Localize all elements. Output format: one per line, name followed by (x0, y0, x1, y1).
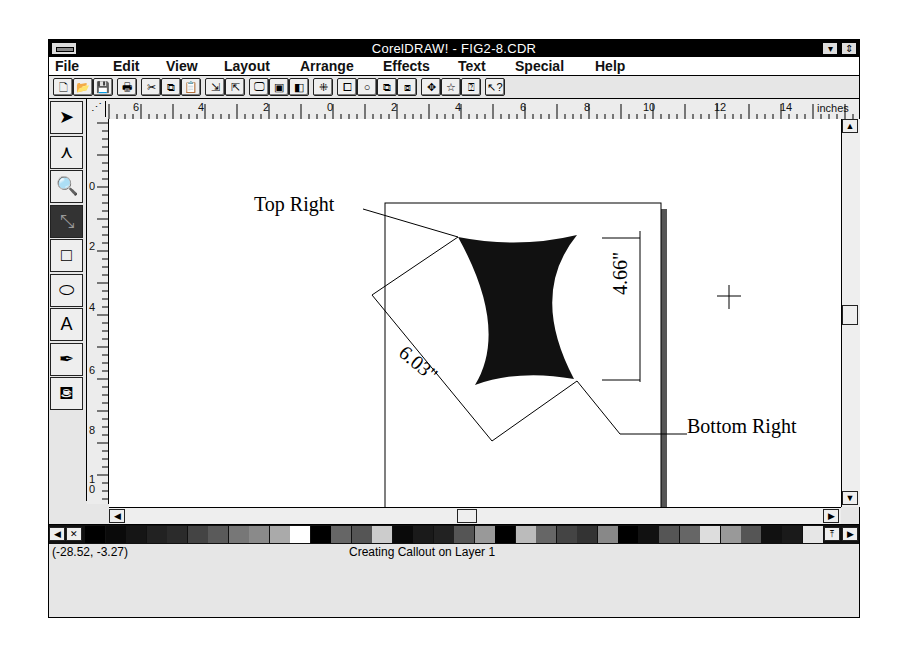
color-swatch[interactable] (557, 526, 577, 543)
horizontal-ruler[interactable]: ⋰ inches 64202468101214 (87, 99, 859, 120)
color-swatch[interactable] (290, 526, 310, 543)
color-swatch[interactable] (782, 526, 802, 543)
color-swatch[interactable] (85, 526, 105, 543)
to-front-button[interactable]: ⧉ (377, 78, 397, 96)
scroll-right-button[interactable]: ▶ (823, 509, 839, 523)
outline-pen-tool[interactable]: ✒ (50, 343, 83, 376)
color-swatch[interactable] (270, 526, 290, 543)
color-swatch[interactable] (659, 526, 679, 543)
zoom-tool[interactable]: 🔍 (50, 170, 83, 203)
color-swatch[interactable] (229, 526, 249, 543)
restore-button[interactable]: ⇕ (841, 42, 857, 55)
palette-scroll-right-button[interactable]: ▶ (842, 527, 858, 541)
color-swatch[interactable] (393, 526, 413, 543)
menu-edit[interactable]: Edit (113, 58, 139, 74)
color-swatch[interactable] (126, 526, 146, 543)
callout-bottom-right[interactable]: Bottom Right (687, 415, 796, 438)
ruler-label: 4 (198, 101, 204, 113)
minimize-button[interactable]: ▾ (822, 42, 838, 55)
color-swatch[interactable] (516, 526, 536, 543)
export-button[interactable]: ⇱ (225, 78, 245, 96)
color-swatch[interactable] (372, 526, 392, 543)
color-swatch[interactable] (147, 526, 167, 543)
palette-expand-button[interactable]: ⤒ (824, 527, 840, 541)
rotate-button[interactable]: ○ (357, 78, 377, 96)
color-swatch[interactable] (618, 526, 638, 543)
color-swatch[interactable] (700, 526, 720, 543)
window-title: CorelDRAW! - FIG2-8.CDR (49, 41, 859, 56)
save-file-icon: 💾 (96, 81, 110, 93)
color-swatch[interactable] (577, 526, 597, 543)
color-swatch[interactable] (331, 526, 351, 543)
star-symbol-button[interactable]: ☆ (441, 78, 461, 96)
show-rulers-button[interactable]: ◧ (289, 78, 309, 96)
menu-layout[interactable]: Layout (224, 58, 270, 74)
pick-tool[interactable]: ➤ (50, 101, 83, 134)
color-swatch[interactable] (495, 526, 515, 543)
group-button[interactable]: ⧠ (337, 78, 357, 96)
callout-top-right[interactable]: Top Right (254, 193, 334, 216)
scroll-left-button[interactable]: ◀ (109, 509, 125, 523)
ellipse-tool[interactable]: ⬭ (50, 274, 83, 307)
menu-arrange[interactable]: Arrange (300, 58, 354, 74)
horizontal-scrollbar[interactable]: ◀ ▶ (109, 507, 841, 524)
scroll-up-button[interactable]: ▲ (842, 119, 858, 133)
wireframe-button[interactable]: ▣ (269, 78, 289, 96)
color-swatch[interactable] (352, 526, 372, 543)
context-help-button[interactable]: ↖? (485, 78, 505, 96)
color-swatch[interactable] (639, 526, 659, 543)
color-swatch[interactable] (208, 526, 228, 543)
fill-tool[interactable]: ⛾ (50, 377, 83, 410)
color-swatch[interactable] (311, 526, 331, 543)
color-swatch[interactable] (598, 526, 618, 543)
color-swatch[interactable] (454, 526, 474, 543)
vertical-scrollbar[interactable]: ▲ ▼ (841, 119, 860, 507)
horizontal-scroll-thumb[interactable] (457, 509, 477, 523)
color-swatch[interactable] (762, 526, 782, 543)
open-file-button[interactable]: 📂 (73, 78, 93, 96)
color-swatch[interactable] (434, 526, 454, 543)
menu-special[interactable]: Special (515, 58, 564, 74)
menu-view[interactable]: View (166, 58, 198, 74)
snap-to-grid-button[interactable]: ⁜ (313, 78, 333, 96)
paste-button[interactable]: 📋 (181, 78, 201, 96)
color-swatch[interactable] (413, 526, 433, 543)
new-file-button[interactable]: 🗋 (53, 78, 73, 96)
color-swatch[interactable] (536, 526, 556, 543)
move-tool-button[interactable]: ✥ (421, 78, 441, 96)
color-swatch[interactable] (106, 526, 126, 543)
cut-button[interactable]: ✂ (141, 78, 161, 96)
text-tool[interactable]: A (50, 308, 83, 341)
menu-help[interactable]: Help (595, 58, 625, 74)
to-back-button[interactable]: ⧈ (397, 78, 417, 96)
dimension-tool[interactable]: ⤡ (50, 205, 83, 238)
menu-effects[interactable]: Effects (383, 58, 430, 74)
palette-scroll-left-button[interactable]: ◀ (49, 527, 65, 541)
color-swatch[interactable] (721, 526, 741, 543)
color-swatch[interactable] (741, 526, 761, 543)
copy-button[interactable]: ⧉ (161, 78, 181, 96)
vertical-ruler[interactable]: 024681 0 (87, 119, 109, 504)
rectangle-tool[interactable]: □ (50, 239, 83, 272)
new-file-icon: 🗋 (59, 81, 68, 93)
roll-up-button[interactable]: ⍰ (461, 78, 481, 96)
color-swatch[interactable] (188, 526, 208, 543)
menu-text[interactable]: Text (458, 58, 486, 74)
vertical-scroll-thumb[interactable] (842, 305, 858, 325)
color-swatch[interactable] (249, 526, 269, 543)
color-swatch[interactable] (167, 526, 187, 543)
status-message: Creating Callout on Layer 1 (349, 545, 495, 559)
dimension-height-label[interactable]: 4.66" (609, 252, 632, 295)
drawing-canvas[interactable]: Top Right Bottom Right 4.66" 6.03" (109, 119, 841, 507)
save-file-button[interactable]: 💾 (93, 78, 113, 96)
shape-tool[interactable]: ⋏ (50, 136, 83, 169)
scroll-down-button[interactable]: ▼ (842, 491, 858, 505)
no-fill-swatch[interactable]: ✕ (66, 527, 82, 541)
import-button[interactable]: ⇲ (205, 78, 225, 96)
full-screen-preview-button[interactable]: 🖵 (249, 78, 269, 96)
color-swatch[interactable] (475, 526, 495, 543)
color-swatch[interactable] (680, 526, 700, 543)
print-button[interactable]: 🖶 (117, 78, 137, 96)
menu-file[interactable]: File (55, 58, 79, 74)
color-swatch[interactable] (803, 526, 823, 543)
